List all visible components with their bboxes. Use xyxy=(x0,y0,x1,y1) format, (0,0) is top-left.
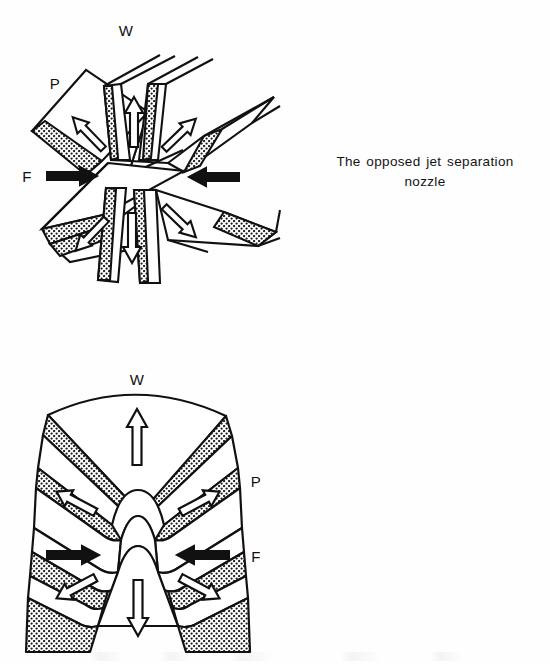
figure-annular-nozzle: W P F The annular separation nozzle xyxy=(0,340,550,664)
waste-duct-left xyxy=(104,55,175,86)
figure-opposed-jet-nozzle: W P F The opposed jet separation nozzle xyxy=(0,0,550,330)
label-feed-figure-2: F xyxy=(251,548,261,565)
label-feed-figure-1: F xyxy=(22,168,32,185)
label-waste-figure-1: W xyxy=(119,22,134,39)
upper-center-right-blade xyxy=(139,84,166,160)
opposed-jet-nozzle-drawing: W P F xyxy=(8,0,298,330)
lower-center-right-blade xyxy=(134,190,160,283)
label-product-figure-1: P xyxy=(50,75,61,92)
caption-line-1: The opposed jet separation xyxy=(305,152,545,172)
diagram-annular-nozzle: W P F xyxy=(8,340,298,664)
annular-nozzle-drawing: W P F xyxy=(8,340,298,664)
diagram-opposed-jet-nozzle: W P F xyxy=(8,0,298,330)
label-product-figure-2: P xyxy=(251,473,262,490)
caption-line-2: nozzle xyxy=(305,172,545,192)
caption-opposed-jet-nozzle: The opposed jet separation nozzle xyxy=(305,152,545,191)
waste-duct-right xyxy=(148,57,213,84)
figure-sheet: W P F The opposed jet separation nozzle xyxy=(0,0,550,664)
label-waste-figure-2: W xyxy=(130,371,145,388)
feed-arrow-right xyxy=(189,168,239,186)
